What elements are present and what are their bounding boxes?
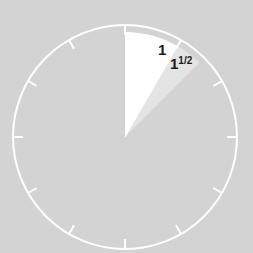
hour-tick — [28, 188, 37, 193]
hour-tick — [176, 225, 181, 234]
label-fraction: 1/2 — [178, 55, 192, 66]
hour-tick — [213, 81, 222, 86]
hour-tick — [213, 188, 222, 193]
label-one: 1 — [158, 42, 166, 57]
hour-tick — [28, 81, 37, 86]
label-one-and-half: 11/2 — [170, 56, 192, 71]
clock-diagram — [0, 0, 253, 253]
hour-tick — [69, 225, 74, 234]
hour-tick — [69, 40, 74, 49]
